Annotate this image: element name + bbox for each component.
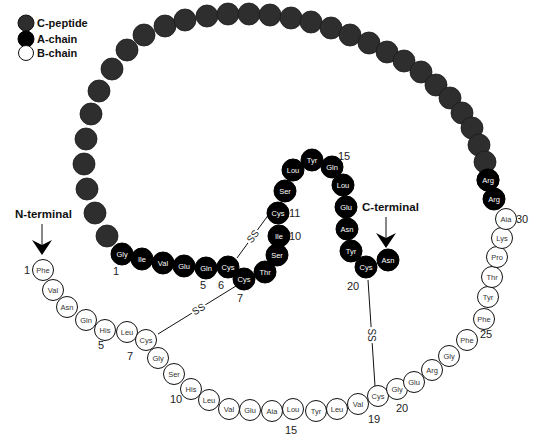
c-peptide-residue bbox=[96, 225, 118, 247]
b-chain-residue-label: His bbox=[186, 385, 197, 394]
b-chain-residue-label: Val bbox=[48, 286, 59, 295]
b-chain-residue-label: Aia bbox=[501, 215, 513, 224]
a-chain-residue: Asn bbox=[377, 249, 399, 271]
n-terminal-label: N-terminal bbox=[15, 208, 72, 220]
c-peptide-residue bbox=[217, 3, 239, 25]
b-chain-residue-label: Val bbox=[353, 400, 364, 409]
b-chain-residue-label: Leu bbox=[121, 328, 134, 337]
b-chain-residue-label: Gly bbox=[391, 385, 403, 394]
b-chain-residue: Aia bbox=[496, 209, 517, 230]
disulfide-bond-label-a6-a11: SS bbox=[244, 227, 261, 245]
b-chain-residue: Gln bbox=[76, 310, 97, 331]
b-chain-residue: Leu bbox=[327, 399, 348, 420]
b-chain-position-number: 15 bbox=[285, 424, 297, 436]
a-chain-residue: Ile bbox=[268, 225, 290, 247]
c-peptide-residue bbox=[80, 103, 102, 125]
b-chain-residue: Phe bbox=[33, 260, 54, 281]
b-chain-position-number: 25 bbox=[480, 328, 492, 340]
a-chain-residue: Ser bbox=[274, 180, 296, 202]
c-peptide-residue bbox=[196, 5, 218, 27]
b-chain-position-number: 20 bbox=[396, 402, 408, 414]
a-chain-position-number: 5 bbox=[200, 279, 206, 291]
legend-item-a-chain: A-chain bbox=[18, 31, 78, 47]
a-chain-residue-label: Val bbox=[158, 259, 169, 268]
a-chain-residue: Lou bbox=[282, 159, 304, 181]
a-chain-position-number: 15 bbox=[338, 150, 350, 162]
a-chain-residue: Gln bbox=[195, 257, 217, 279]
b-chain-residue-label: Ser bbox=[168, 370, 180, 379]
b-chain-residue: Pro bbox=[487, 247, 508, 268]
a-chain-residue: Asn bbox=[336, 218, 358, 240]
b-chain-residue-label: Cys bbox=[372, 392, 385, 401]
legend-item-b-chain: B-chain bbox=[19, 46, 78, 61]
b-chain-position-number: 19 bbox=[368, 413, 380, 425]
b-chain-residue-label: His bbox=[100, 326, 111, 335]
b-chain-residue-label: Tyr bbox=[311, 407, 322, 416]
a-chain-residue-label: Cys bbox=[238, 275, 251, 284]
b-chain-residue-label: Gly bbox=[152, 354, 164, 363]
a-chain-residue: Cys bbox=[233, 268, 255, 290]
b-chain-position-number: 1 bbox=[24, 264, 30, 276]
b-chain-residue: Ser bbox=[164, 364, 185, 385]
b-chain-residue-label: Glu bbox=[244, 406, 256, 415]
disulfide-bond-label-a20-b19: SS bbox=[366, 328, 377, 342]
a-chain-residue: Glu bbox=[335, 196, 357, 218]
b-chain-residue-label: Lou bbox=[287, 405, 300, 414]
c-peptide-residue bbox=[154, 15, 176, 37]
b-chain-position-number: 7 bbox=[127, 350, 133, 362]
legend-label-c-peptide: C-peptide bbox=[37, 17, 88, 29]
b-chain-residue: Cys bbox=[368, 386, 389, 407]
b-chain-position-number: 30 bbox=[516, 213, 528, 225]
a-chain-residue-label: Ile bbox=[138, 255, 146, 264]
linker-residue-label: Arg bbox=[488, 195, 500, 204]
c-terminal-label: C-terminal bbox=[362, 201, 419, 213]
c-terminal-marker: C-terminal bbox=[362, 201, 419, 248]
a-chain-position-number: 6 bbox=[218, 279, 224, 291]
a-chain-residue: Tyr bbox=[301, 149, 323, 171]
b-chain-swatch-icon bbox=[19, 46, 34, 61]
legend-label-b-chain: B-chain bbox=[37, 47, 78, 59]
linker-residue-label: Arg bbox=[482, 176, 494, 185]
a-chain-position-number: 7 bbox=[237, 292, 243, 304]
c-peptide-residue bbox=[174, 9, 196, 31]
a-chain-residue-label: Ser bbox=[271, 251, 283, 260]
b-chain-residue: Tyr bbox=[306, 401, 327, 422]
a-chain-residue-label: Cys bbox=[222, 263, 235, 272]
a-chain-swatch-icon bbox=[18, 31, 34, 47]
a-chain-position-number: 11 bbox=[289, 207, 300, 219]
b-chain-residue: Gly bbox=[148, 348, 169, 369]
b-chain-residue-label: Phe bbox=[460, 336, 473, 345]
c-peptide-residue bbox=[73, 153, 95, 175]
c-peptide-residue bbox=[238, 3, 260, 25]
c-peptide-residue bbox=[88, 80, 110, 102]
a-chain-residue: Lou bbox=[332, 174, 354, 196]
b-chain-residue: Leu bbox=[117, 322, 138, 343]
c-peptide-residue bbox=[101, 58, 123, 80]
c-peptide-residue bbox=[259, 4, 281, 26]
b-chain-residue-label: Tyr bbox=[483, 293, 494, 302]
b-chain-residue-label: Val bbox=[224, 405, 235, 414]
b-chain-residue: His bbox=[181, 379, 202, 400]
b-chain-residue-label: Asn bbox=[61, 303, 74, 312]
b-chain-residue-label: Pro bbox=[491, 253, 503, 262]
b-chain-residue: Tyr bbox=[478, 287, 499, 308]
b-chain-residue-label: Gly bbox=[443, 352, 455, 361]
c-peptide-swatch-icon bbox=[18, 15, 34, 31]
b-chain-residue: Glu bbox=[404, 372, 425, 393]
b-chain-residue-label: Aia bbox=[267, 407, 279, 416]
a-chain-residue: Cys bbox=[267, 202, 289, 224]
c-peptide-residue bbox=[300, 11, 322, 33]
b-chain-residue: Gly bbox=[439, 346, 460, 367]
legend-item-c-peptide: C-peptide bbox=[18, 15, 88, 31]
legend-label-a-chain: A-chain bbox=[37, 33, 78, 45]
b-chain-residue-label: Phe bbox=[477, 315, 490, 324]
a-chain-residue-label: Tyr bbox=[346, 247, 357, 256]
a-chain-residue: Val bbox=[152, 252, 174, 274]
a-chain-residue-label: Cys bbox=[272, 209, 285, 218]
b-chain-residue-label: Glu bbox=[408, 378, 420, 387]
b-chain-residue: Phe bbox=[474, 309, 495, 330]
c-peptide-residue bbox=[280, 7, 302, 29]
a-chain-residue: Cys bbox=[355, 256, 377, 278]
a-chain-residue-label: Glu bbox=[178, 262, 190, 271]
b-chain-residue: Thr bbox=[482, 267, 503, 288]
